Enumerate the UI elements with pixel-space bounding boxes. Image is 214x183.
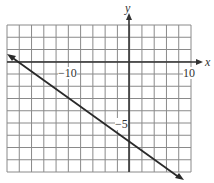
- line-arrow-end-icon: [175, 173, 184, 180]
- coordinate-plane: [0, 0, 214, 183]
- x-tick-label: −10: [58, 67, 77, 79]
- y-axis-label: y: [125, 2, 130, 14]
- x-axis-arrow-icon: [196, 59, 203, 65]
- x-tick-label: 10: [183, 67, 195, 79]
- y-tick-label: −5: [115, 118, 128, 130]
- grid: [7, 25, 191, 172]
- x-axis-label: x: [205, 56, 210, 68]
